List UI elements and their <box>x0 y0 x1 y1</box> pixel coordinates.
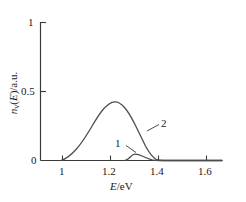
x-tick-label-1-4: 1.4 <box>150 166 164 177</box>
curve-series-2 <box>61 102 222 161</box>
x-axis-title-units: /eV <box>117 180 133 192</box>
leader-line-curve-1 <box>126 146 136 153</box>
y-axis-title-subscript: v <box>12 105 21 109</box>
y-axis-title-paren-close: ) <box>7 91 19 95</box>
x-tick-label-1-6: 1.6 <box>198 166 212 177</box>
x-axis-title: E/eV <box>110 181 133 192</box>
y-tick-label-0-5: 0.5 <box>21 86 35 97</box>
x-tick-label-1-2: 1.2 <box>102 166 116 177</box>
curve-label-2: 2 <box>161 118 167 129</box>
y-axis-title: nv(E)/a.u. <box>3 53 21 133</box>
x-tick-label-1: 1 <box>59 166 65 177</box>
curve-label-1: 1 <box>115 138 121 149</box>
y-axis-title-units: /a.u. <box>7 72 19 91</box>
leader-line-curve-2 <box>147 125 159 132</box>
y-axis-title-paren-open: ( <box>7 101 19 105</box>
curve-series-1 <box>125 154 222 160</box>
chart-figure: 1 0.5 0 1 1.2 1.4 1.6 E/eV nv(E)/a.u. 1 … <box>0 0 246 202</box>
y-axis-title-main: n <box>7 109 19 115</box>
y-axis-title-variable: E <box>7 94 19 101</box>
x-axis-title-variable: E <box>110 180 117 192</box>
y-tick-label-0: 0 <box>31 155 37 166</box>
y-tick-label-1: 1 <box>28 17 34 28</box>
